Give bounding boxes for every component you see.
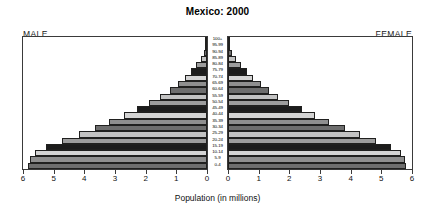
x-tick-label-4: 4 <box>341 174 361 183</box>
female-plot-panel <box>227 36 413 170</box>
x-tick-label-6: 6 <box>13 174 33 183</box>
population-pyramid-chart: Mexico: 2000 MALE FEMALE 100+95-9990-948… <box>0 0 435 221</box>
bar-female-0-4 <box>228 163 406 169</box>
x-tick-label-1: 1 <box>249 174 269 183</box>
chart-title: Mexico: 2000 <box>0 6 435 17</box>
bar-male-0-4 <box>28 163 207 169</box>
x-tick-label-5: 5 <box>44 174 64 183</box>
bar-row <box>23 163 207 169</box>
male-plot-panel <box>22 36 208 170</box>
x-tick-label-5: 5 <box>371 174 391 183</box>
x-tick-label-4: 4 <box>74 174 94 183</box>
x-tick-label-0: 0 <box>218 174 238 183</box>
age-group-axis: 100+95-9990-9485-8980-8475-7970-7465-696… <box>208 36 227 170</box>
x-axis-title: Population (in millions) <box>0 193 435 203</box>
x-tick-label-1: 1 <box>166 174 186 183</box>
x-tick-label-3: 3 <box>310 174 330 183</box>
x-tick-label-2: 2 <box>279 174 299 183</box>
bar-row <box>228 163 412 169</box>
male-x-axis: 6543210 <box>22 170 208 180</box>
x-tick-label-6: 6 <box>402 174 422 183</box>
x-tick-label-2: 2 <box>136 174 156 183</box>
female-x-axis: 0123456 <box>227 170 413 180</box>
age-label-0-4: 0-4 <box>208 162 227 168</box>
x-tick-label-0: 0 <box>197 174 217 183</box>
x-tick-label-3: 3 <box>105 174 125 183</box>
